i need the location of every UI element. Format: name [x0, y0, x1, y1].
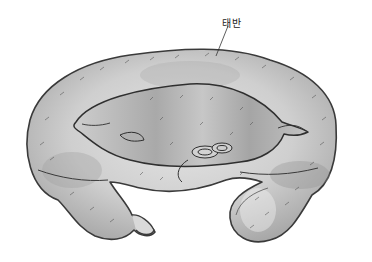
placenta-drawing [0, 0, 372, 262]
placenta-illustration: 태반 [0, 0, 372, 262]
placenta-label: 태반 [222, 15, 241, 30]
